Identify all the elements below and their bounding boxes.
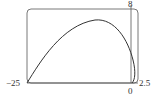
x-min-label: −25 bbox=[6, 79, 20, 88]
viewing-window-frame bbox=[27, 9, 138, 83]
curve bbox=[27, 20, 135, 83]
y-max-label: 8 bbox=[128, 0, 133, 9]
x-max-label: 2.5 bbox=[139, 79, 150, 88]
x-origin-label: 0 bbox=[128, 87, 133, 96]
